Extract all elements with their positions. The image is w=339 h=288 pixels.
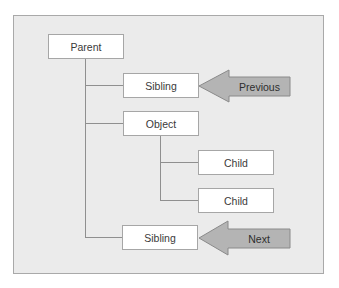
- node-child-2: Child: [198, 188, 274, 213]
- connector-to-child-1: [160, 162, 198, 163]
- connector-to-object: [85, 123, 123, 124]
- node-object: Object: [123, 111, 199, 136]
- connector-to-sibling-previous: [85, 85, 123, 86]
- node-parent: Parent: [48, 34, 124, 59]
- connector-object-trunk: [160, 136, 161, 200]
- connector-to-sibling-next: [85, 237, 123, 238]
- next-arrow-label: Next: [228, 229, 290, 248]
- node-child-1: Child: [198, 150, 274, 175]
- node-sibling-next: Sibling: [122, 225, 198, 250]
- node-sibling-previous: Sibling: [123, 73, 199, 98]
- connector-to-child-2: [160, 200, 198, 201]
- previous-arrow-label: Previous: [229, 77, 290, 96]
